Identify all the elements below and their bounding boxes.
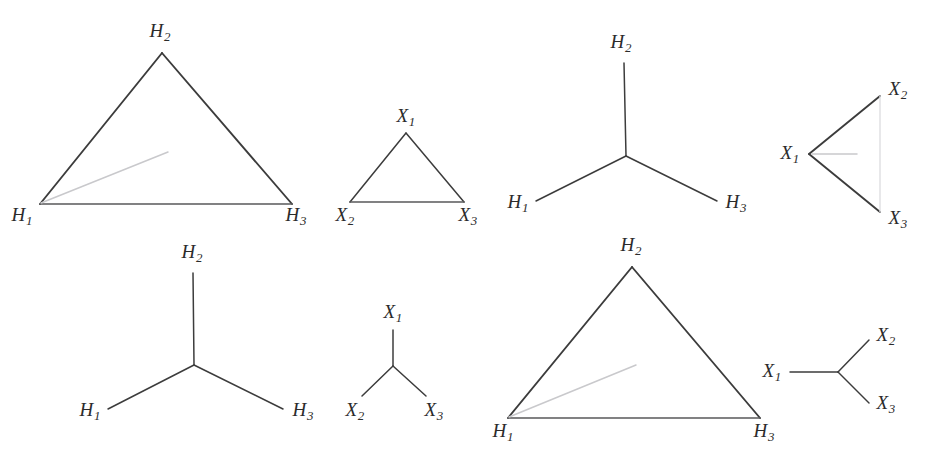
- triangle-edge-x1-x2: [809, 96, 880, 154]
- triangle-edge-h1-h2: [508, 267, 632, 418]
- vertex-label-subscript: 2: [358, 407, 365, 422]
- triangle-interior-ray: [509, 365, 636, 417]
- figure-small-triangle-x-top: [350, 133, 464, 202]
- vertex-label-subscript: 2: [196, 249, 203, 264]
- vertex-label-base: H: [507, 191, 521, 212]
- tripod-arm-h3: [626, 156, 717, 201]
- vertex-label-x2: X2: [346, 400, 365, 423]
- vertex-label-h1: H1: [507, 192, 528, 215]
- vertex-label-x1: X1: [781, 143, 800, 166]
- vertex-label-base: X: [397, 105, 409, 126]
- vertex-label-subscript: 2: [635, 242, 642, 257]
- vertex-label-h2: H2: [149, 21, 170, 44]
- tripod-arm-x3: [838, 372, 869, 403]
- vertex-label-base: X: [889, 78, 901, 99]
- vertex-label-base: H: [79, 399, 93, 420]
- triangle-edge-x1-x3: [406, 133, 464, 202]
- vertex-label-subscript: 1: [94, 407, 101, 422]
- figure-large-triangle-h-bottom: [508, 267, 760, 418]
- vertex-label-h2: H2: [620, 235, 641, 258]
- tripod-arm-x2: [362, 366, 393, 396]
- vertex-label-x2: X2: [336, 205, 355, 228]
- vertex-label-base: X: [889, 207, 901, 228]
- vertex-label-subscript: 1: [409, 113, 416, 128]
- triangle-edge-x1-x3: [809, 154, 880, 212]
- vertex-label-subscript: 2: [164, 28, 171, 43]
- vertex-label-base: H: [181, 241, 195, 262]
- vertex-label-subscript: 3: [740, 199, 747, 214]
- triangle-edge-x2-x1: [350, 133, 406, 202]
- vertex-label-base: H: [620, 234, 634, 255]
- vertex-label-subscript: 1: [522, 199, 529, 214]
- vertex-label-base: X: [781, 142, 793, 163]
- vertex-label-h2: H2: [181, 242, 202, 265]
- vertex-label-h3: H3: [292, 400, 313, 423]
- figure-rotated-triangle-x-top-right: [809, 96, 880, 212]
- vertex-label-base: H: [610, 31, 624, 52]
- vertex-label-subscript: 1: [396, 309, 403, 324]
- vertex-label-base: X: [336, 204, 348, 225]
- figure-canvas: [0, 0, 926, 475]
- vertex-label-subscript: 2: [889, 332, 896, 347]
- vertex-label-h1: H1: [79, 400, 100, 423]
- vertex-label-base: H: [292, 399, 306, 420]
- vertex-label-base: X: [346, 399, 358, 420]
- vertex-label-h1: H1: [11, 205, 32, 228]
- vertex-label-subscript: 2: [348, 212, 355, 227]
- vertex-label-subscript: 1: [793, 150, 800, 165]
- tripod-arm-h2: [193, 273, 194, 365]
- triangle-interior-ray: [41, 152, 168, 203]
- vertex-label-x1: X1: [384, 302, 403, 325]
- vertex-label-base: X: [425, 399, 437, 420]
- figure-rotated-tripod-x-bottom-right: [790, 340, 869, 403]
- vertex-label-base: X: [877, 392, 889, 413]
- vertex-label-subscript: 3: [437, 407, 444, 422]
- tripod-arm-h3: [194, 365, 283, 409]
- tripod-arm-x2: [838, 340, 869, 372]
- vertex-label-x2: X2: [889, 79, 908, 102]
- vertex-label-subscript: 3: [300, 212, 307, 227]
- triangle-edge-h2-h3: [162, 53, 292, 204]
- vertex-label-x3: X3: [877, 393, 896, 416]
- vertex-label-h3: H3: [753, 421, 774, 444]
- vertex-label-h1: H1: [492, 421, 513, 444]
- vertex-label-subscript: 1: [507, 428, 514, 443]
- vertex-label-subscript: 3: [901, 215, 908, 230]
- triangle-edge-h1-h2: [40, 53, 162, 204]
- vertex-label-subscript: 2: [625, 39, 632, 54]
- vertex-label-subscript: 2: [901, 86, 908, 101]
- vertex-label-x1: X1: [763, 361, 782, 384]
- vertex-label-h3: H3: [285, 205, 306, 228]
- vertex-label-x3: X3: [425, 400, 444, 423]
- vertex-label-base: X: [459, 204, 471, 225]
- vertex-label-base: X: [877, 324, 889, 345]
- vertex-label-x2: X2: [877, 325, 896, 348]
- vertex-label-h3: H3: [725, 192, 746, 215]
- figure-tripod-h-bottom: [108, 273, 283, 409]
- vertex-label-base: H: [285, 204, 299, 225]
- vertex-label-subscript: 3: [471, 212, 478, 227]
- vertex-label-base: H: [149, 20, 163, 41]
- tripod-arm-h1: [536, 156, 626, 201]
- vertex-label-base: H: [492, 420, 506, 441]
- vertex-label-subscript: 1: [26, 212, 33, 227]
- vertex-label-base: H: [725, 191, 739, 212]
- vertex-label-x3: X3: [889, 208, 908, 231]
- vertex-label-base: H: [11, 204, 25, 225]
- vertex-label-base: X: [384, 301, 396, 322]
- vertex-label-subscript: 3: [889, 400, 896, 415]
- tripod-arm-x3: [393, 366, 426, 396]
- vertex-label-base: X: [763, 360, 775, 381]
- vertex-label-subscript: 1: [775, 368, 782, 383]
- vertex-label-h2: H2: [610, 32, 631, 55]
- vertex-label-subscript: 3: [307, 407, 314, 422]
- tripod-arm-h1: [108, 365, 194, 409]
- triangle-edge-h2-h3: [632, 267, 760, 418]
- figure-small-tripod-x-bottom: [362, 330, 426, 396]
- tripod-arm-h2: [624, 63, 626, 156]
- vertex-label-base: H: [753, 420, 767, 441]
- figure-tripod-h-top: [536, 63, 717, 201]
- vertex-label-subscript: 3: [768, 428, 775, 443]
- vertex-label-x3: X3: [459, 205, 478, 228]
- vertex-label-x1: X1: [397, 106, 416, 129]
